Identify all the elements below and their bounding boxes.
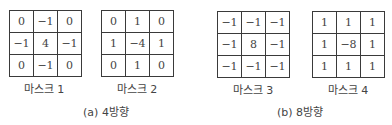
caption-8-direction: (b) 8방향 xyxy=(240,103,360,119)
cell: 1 xyxy=(361,12,385,34)
cell: 8 xyxy=(242,34,266,56)
mask-2-label: 마스크 2 xyxy=(97,80,177,96)
cell: −1 xyxy=(266,34,290,56)
cell: −1 xyxy=(218,34,242,56)
cell: 0 xyxy=(58,11,82,33)
mask-4-grid: 111 1−81 111 xyxy=(312,11,385,78)
cell: −1 xyxy=(242,56,266,78)
cell: 1 xyxy=(126,11,150,33)
cell: −1 xyxy=(34,11,58,33)
cell: 1 xyxy=(126,55,150,77)
cell: −1 xyxy=(266,56,290,78)
cell: −1 xyxy=(58,33,82,55)
cell: 0 xyxy=(58,55,82,77)
mask-3-grid: −1−1−1 −18−1 −1−1−1 xyxy=(217,11,290,78)
cell: −1 xyxy=(218,12,242,34)
cell: 1 xyxy=(361,56,385,78)
cell: 0 xyxy=(150,55,174,77)
cell: 1 xyxy=(102,33,126,55)
mask-3-label: 마스크 3 xyxy=(213,81,293,97)
cell: 0 xyxy=(102,11,126,33)
cell: 1 xyxy=(313,34,337,56)
cell: 0 xyxy=(150,11,174,33)
caption-4-direction: (a) 4방향 xyxy=(46,103,166,119)
cell: 1 xyxy=(361,34,385,56)
mask-1-label: 마스크 1 xyxy=(4,80,84,96)
cell: 1 xyxy=(313,12,337,34)
mask-4-label: 마스크 4 xyxy=(308,81,388,97)
cell: 1 xyxy=(337,12,361,34)
mask-1-grid: 0−10 −14−1 0−10 xyxy=(9,10,82,77)
cell: 0 xyxy=(10,55,34,77)
cell: 1 xyxy=(313,56,337,78)
cell: −4 xyxy=(126,33,150,55)
mask-2-grid: 010 1−41 010 xyxy=(101,10,174,77)
cell: −8 xyxy=(337,34,361,56)
cell: 0 xyxy=(102,55,126,77)
cell: −1 xyxy=(266,12,290,34)
cell: −1 xyxy=(34,55,58,77)
cell: 1 xyxy=(150,33,174,55)
cell: −1 xyxy=(242,12,266,34)
cell: −1 xyxy=(10,33,34,55)
cell: −1 xyxy=(218,56,242,78)
cell: 4 xyxy=(34,33,58,55)
cell: 0 xyxy=(10,11,34,33)
cell: 1 xyxy=(337,56,361,78)
